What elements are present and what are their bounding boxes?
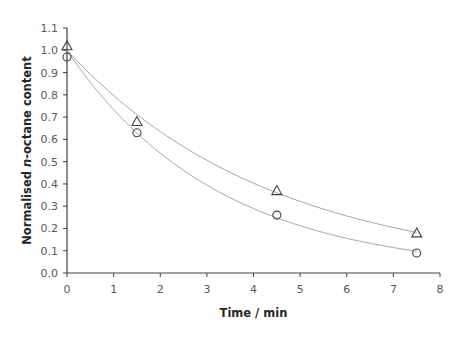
y-tick-label: 1.0 [41,44,59,57]
y-tick-label: 0.0 [41,267,59,280]
x-axis-ticks: 012345678 [64,273,444,296]
y-axis-title-italic: n [20,159,34,167]
x-tick-label: 1 [110,283,117,296]
chart: 0.00.10.20.30.40.50.60.70.80.91.01.1 012… [0,0,465,337]
y-axis-title-part: Normalised [20,167,34,245]
x-tick-label: 6 [343,283,350,296]
x-tick-label: 8 [437,283,444,296]
circle-marker [413,249,421,257]
y-tick-label: 1.1 [41,22,59,35]
x-tick-label: 4 [250,283,257,296]
fit-curves [67,50,417,251]
y-tick-label: 0.7 [41,111,59,124]
x-tick-label: 5 [297,283,304,296]
y-tick-label: 0.4 [41,178,59,191]
y-tick-label: 0.1 [41,245,59,258]
y-tick-label: 0.9 [41,67,59,80]
x-tick-label: 3 [203,283,210,296]
y-tick-label: 0.8 [41,89,59,102]
x-tick-label: 0 [64,283,71,296]
y-axis-title: Normalised n-octane content [20,56,34,245]
x-tick-label: 2 [157,283,164,296]
y-tick-label: 0.6 [41,133,59,146]
y-axis-title-part: -octane content [20,56,34,159]
y-axis-ticks: 0.00.10.20.30.40.50.60.70.80.91.01.1 [41,22,68,280]
x-axis-title: Time / min [220,306,288,320]
x-tick-label: 7 [390,283,397,296]
y-tick-label: 0.5 [41,156,59,169]
y-tick-label: 0.2 [41,222,59,235]
y-tick-label: 0.3 [41,200,59,213]
data-markers [62,41,422,257]
triangle-series-fit-curve [67,50,417,232]
triangle-marker [132,117,142,126]
